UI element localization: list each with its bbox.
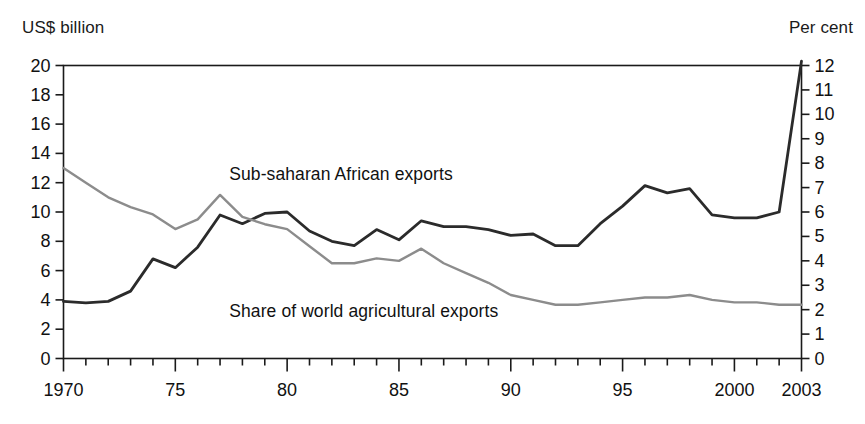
series-label-share-of-world-agricultural-exports: Share of world agricultural exports — [229, 301, 498, 322]
y2-axis-tick-label: 5 — [815, 227, 825, 245]
series-label-sub-saharan-african-exports: Sub-saharan African exports — [229, 164, 453, 185]
x-axis-tick-label: 80 — [247, 381, 327, 399]
y-axis-tick-label: 14 — [30, 144, 50, 162]
x-axis-tick-label: 90 — [471, 381, 551, 399]
x-axis-tick-label: 95 — [583, 381, 663, 399]
x-axis-tick-label: 75 — [135, 381, 215, 399]
y2-axis-tick-label: 0 — [815, 350, 825, 368]
y2-axis-tick-label: 3 — [815, 276, 825, 294]
plot-area — [0, 0, 865, 424]
chart-figure: US$ billion Per cent Sub-saharan African… — [0, 0, 865, 424]
y-axis-tick-label: 0 — [40, 350, 50, 368]
y2-axis-tick-label: 7 — [815, 179, 825, 197]
y-axis-tick-label: 18 — [30, 86, 50, 104]
y2-axis-tick-label: 10 — [815, 105, 835, 123]
y-axis-tick-label: 2 — [40, 320, 50, 338]
y-axis-tick-label: 20 — [30, 57, 50, 75]
x-axis-tick-label: 1970 — [24, 381, 104, 399]
y2-axis-tick-label: 11 — [815, 81, 834, 99]
y2-axis-tick-label: 8 — [815, 154, 825, 172]
y2-axis-tick-label: 1 — [815, 325, 825, 343]
y-axis-tick-label: 4 — [40, 291, 50, 309]
y2-axis-tick-label: 9 — [815, 130, 825, 148]
y2-axis-tick-label: 6 — [815, 203, 825, 221]
y-axis-tick-label: 8 — [40, 232, 50, 250]
y2-axis-tick-label: 4 — [815, 252, 825, 270]
y2-axis-tick-label: 12 — [815, 57, 835, 75]
y-axis-tick-label: 12 — [30, 174, 50, 192]
y-axis-tick-label: 10 — [30, 203, 50, 221]
y-axis-tick-label: 16 — [30, 115, 50, 133]
y-axis-tick-label: 6 — [40, 262, 50, 280]
x-axis-tick-label: 85 — [359, 381, 439, 399]
y2-axis-tick-label: 2 — [815, 301, 825, 319]
x-axis-tick-label: 2003 — [762, 381, 842, 399]
